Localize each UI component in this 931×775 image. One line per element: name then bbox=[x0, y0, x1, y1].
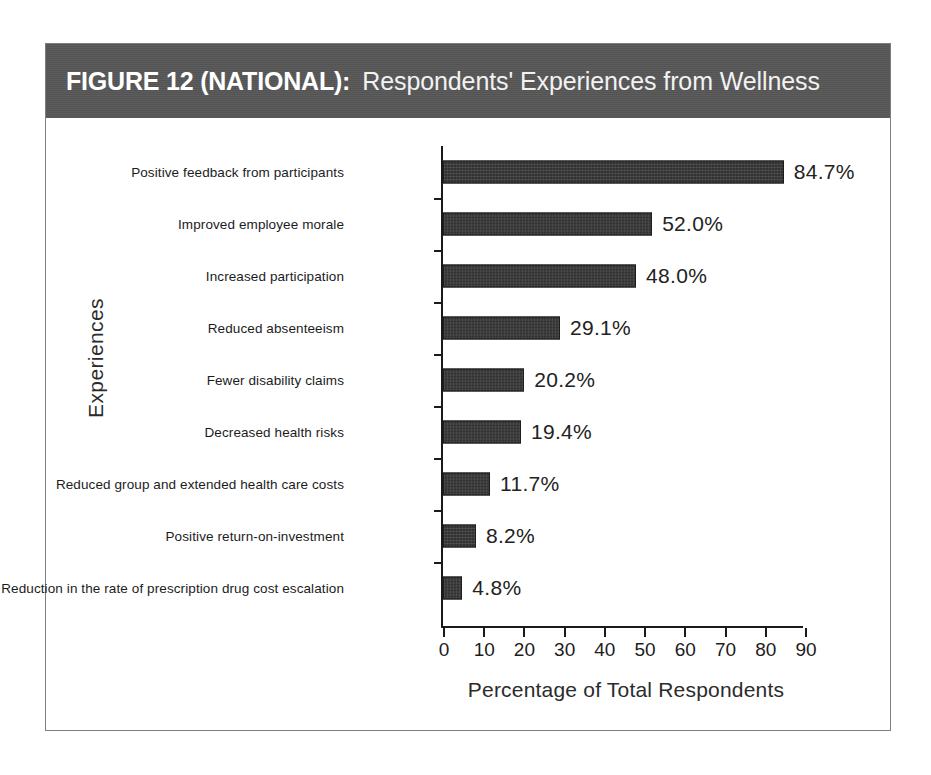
bar-row: Increased participation48.0% bbox=[46, 250, 890, 302]
category-label: Reduced group and extended health care c… bbox=[56, 477, 344, 492]
x-axis-tick bbox=[483, 628, 485, 637]
bar bbox=[443, 473, 490, 496]
x-axis-tick bbox=[564, 628, 566, 637]
category-tick bbox=[434, 354, 442, 356]
x-axis-tick-label: 40 bbox=[585, 639, 625, 661]
bar-row: Positive feedback from participants84.7% bbox=[46, 146, 890, 198]
x-axis-tick-label: 50 bbox=[625, 639, 665, 661]
bar-row: Reduced absenteeism29.1% bbox=[46, 302, 890, 354]
bar-row: Improved employee morale52.0% bbox=[46, 198, 890, 250]
bar-value-label: 4.8% bbox=[472, 576, 521, 600]
x-axis-tick bbox=[443, 628, 445, 637]
category-tick bbox=[434, 562, 442, 564]
category-tick bbox=[434, 510, 442, 512]
page-title: Respondents' Experiences from Wellness bbox=[362, 67, 820, 95]
value-axis-line bbox=[441, 626, 803, 628]
bar-row: Fewer disability claims20.2% bbox=[46, 354, 890, 406]
bar bbox=[443, 317, 560, 340]
bar-row: Reduced group and extended health care c… bbox=[46, 458, 890, 510]
x-axis-tick-label: 20 bbox=[504, 639, 544, 661]
category-label: Improved employee morale bbox=[178, 217, 344, 232]
bar-value-label: 11.7% bbox=[500, 472, 560, 496]
category-tick bbox=[434, 458, 442, 460]
bar-row: Reduction in the rate of prescription dr… bbox=[46, 562, 890, 614]
x-axis-tick bbox=[523, 628, 525, 637]
category-label: Reduced absenteeism bbox=[208, 321, 344, 336]
category-label: Decreased health risks bbox=[204, 425, 344, 440]
category-label: Increased participation bbox=[206, 269, 344, 284]
category-label: Positive feedback from participants bbox=[131, 165, 344, 180]
x-axis-tick-label: 0 bbox=[424, 639, 464, 661]
bar bbox=[443, 421, 521, 444]
bar bbox=[443, 213, 652, 236]
x-axis-tick-label: 30 bbox=[545, 639, 585, 661]
bar bbox=[443, 265, 636, 288]
bar bbox=[443, 161, 784, 184]
x-axis-tick bbox=[805, 628, 807, 637]
figure-frame: FIGURE 12 (NATIONAL):Respondents' Experi… bbox=[45, 43, 891, 731]
bar-value-label: 19.4% bbox=[531, 420, 592, 444]
x-axis-tick-label: 60 bbox=[665, 639, 705, 661]
category-tick bbox=[434, 250, 442, 252]
category-tick bbox=[434, 302, 442, 304]
x-axis-tick-label: 90 bbox=[786, 639, 826, 661]
x-axis-tick-label: 70 bbox=[706, 639, 746, 661]
chart-plot-area: Experiences Positive feedback from parti… bbox=[46, 118, 890, 730]
category-label: Positive return-on-investment bbox=[166, 529, 344, 544]
category-tick bbox=[434, 406, 442, 408]
x-axis-tick bbox=[604, 628, 606, 637]
figure-header-text: FIGURE 12 (NATIONAL):Respondents' Experi… bbox=[46, 67, 820, 96]
bar-value-label: 8.2% bbox=[486, 524, 535, 548]
bar-value-label: 20.2% bbox=[534, 368, 595, 392]
bar-value-label: 29.1% bbox=[570, 316, 631, 340]
x-axis-tick-label: 80 bbox=[746, 639, 786, 661]
bar-value-label: 52.0% bbox=[662, 212, 723, 236]
x-axis-tick-label: 10 bbox=[464, 639, 504, 661]
category-label: Reduction in the rate of prescription dr… bbox=[1, 581, 344, 596]
x-axis-tick bbox=[684, 628, 686, 637]
figure-header-band: FIGURE 12 (NATIONAL):Respondents' Experi… bbox=[46, 44, 890, 118]
x-axis-title: Percentage of Total Respondents bbox=[346, 678, 906, 702]
figure-number-label: FIGURE 12 (NATIONAL): bbox=[66, 67, 350, 95]
category-tick bbox=[434, 198, 442, 200]
bar-row: Positive return-on-investment8.2% bbox=[46, 510, 890, 562]
bar bbox=[443, 525, 476, 548]
bar-value-label: 84.7% bbox=[794, 160, 855, 184]
bar-value-label: 48.0% bbox=[646, 264, 707, 288]
x-axis-tick bbox=[765, 628, 767, 637]
bar bbox=[443, 369, 524, 392]
bar-row: Decreased health risks19.4% bbox=[46, 406, 890, 458]
category-label: Fewer disability claims bbox=[207, 373, 344, 388]
x-axis-tick bbox=[725, 628, 727, 637]
x-axis-tick bbox=[644, 628, 646, 637]
bar bbox=[443, 577, 462, 600]
